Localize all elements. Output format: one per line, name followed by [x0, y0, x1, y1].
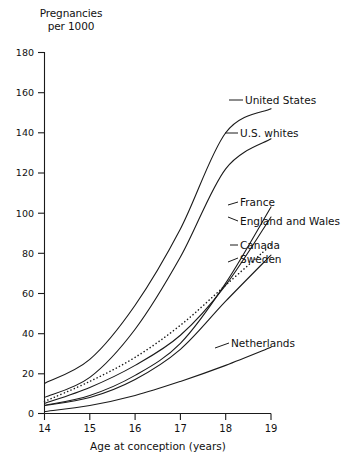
series-line-sweden [45, 255, 272, 405]
series-line-france [45, 207, 272, 406]
x-axis-tick-labels: 14 15 16 17 18 19 [38, 423, 277, 434]
x-tick-15: 15 [83, 423, 96, 434]
x-tick-16: 16 [129, 423, 142, 434]
leader-france [228, 202, 238, 205]
y-tick-120: 120 [16, 167, 34, 178]
leader-england-wales [228, 217, 238, 221]
line-chart-plot: 180 160 140 120 100 80 60 40 20 0 14 15 … [0, 0, 342, 455]
x-tick-18: 18 [219, 423, 232, 434]
series-label-united-states: United States [245, 94, 316, 106]
x-axis-ticks [45, 414, 272, 421]
y-tick-20: 20 [22, 368, 34, 379]
y-tick-80: 80 [22, 248, 34, 259]
series-label-netherlands: Netherlands [231, 337, 295, 349]
label-leader-lines [215, 100, 243, 348]
y-axis-tick-labels: 180 160 140 120 100 80 60 40 20 0 [16, 47, 34, 419]
y-tick-160: 160 [16, 87, 34, 98]
y-tick-180: 180 [16, 47, 34, 58]
y-axis-ticks [38, 53, 45, 414]
series-labels: United States U.S. whites France England… [231, 94, 340, 349]
series-label-us-whites: U.S. whites [240, 127, 299, 139]
y-tick-140: 140 [16, 127, 34, 138]
x-tick-14: 14 [38, 423, 51, 434]
series-label-france: France [240, 196, 275, 208]
x-axis-title: Age at conception (years) [90, 440, 226, 452]
y-tick-60: 60 [22, 288, 34, 299]
series-label-sweden: Sweden [240, 253, 282, 265]
series-line-u-s-whites [45, 139, 272, 398]
chart-figure: Pregnancies per 1000 180 160 140 120 100… [0, 0, 342, 455]
x-tick-19: 19 [265, 423, 278, 434]
data-series-group [45, 109, 272, 412]
y-tick-40: 40 [22, 328, 34, 339]
x-tick-17: 17 [174, 423, 187, 434]
leader-sweden [228, 258, 238, 262]
leader-netherlands [215, 343, 229, 348]
series-label-canada: Canada [240, 239, 280, 251]
y-tick-0: 0 [28, 408, 34, 419]
series-line-netherlands [45, 347, 272, 411]
series-label-england-and-wales: England and Wales [240, 215, 340, 227]
y-tick-100: 100 [16, 208, 34, 219]
